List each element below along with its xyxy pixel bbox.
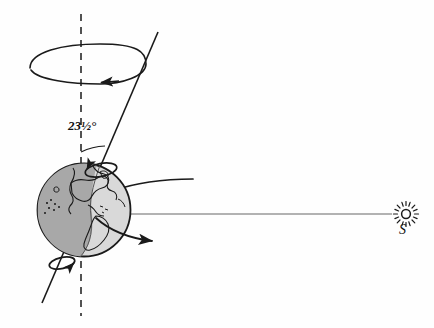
diagram-canvas: 23½° S [0, 0, 434, 328]
earth-tilt-diagram [0, 0, 434, 328]
south-pole-rotation-arrow-icon [48, 255, 76, 272]
sun-icon [394, 202, 419, 227]
precession-arrow-icon [30, 44, 146, 84]
sun-label: S [399, 222, 406, 238]
tilt-angle-label: 23½° [68, 118, 96, 134]
earth-globe-icon [38, 163, 131, 258]
tilt-angle-arc [81, 146, 105, 152]
